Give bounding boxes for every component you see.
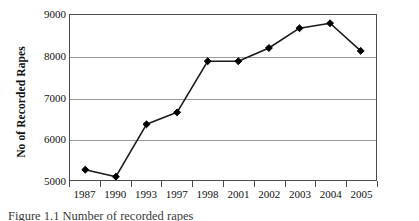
x-axis-tick <box>131 181 132 187</box>
data-point-marker <box>235 58 242 65</box>
figure-chart-recorded-rapes: No of Recorded Rapes 5000600070008000900… <box>0 0 419 221</box>
x-axis-tick-label: 1987 <box>73 188 95 201</box>
data-point-marker <box>82 166 89 173</box>
x-axis-tick-label: 1998 <box>197 188 219 201</box>
series-line <box>85 23 360 176</box>
y-axis-tick-label: 7000 <box>30 92 66 103</box>
x-axis-tick <box>69 181 70 187</box>
x-axis-tick-label: 2002 <box>258 188 280 201</box>
x-axis-tick <box>254 181 255 187</box>
y-axis-tick-label: 6000 <box>30 134 66 145</box>
plot-area <box>69 14 377 181</box>
x-axis-tick <box>377 181 378 187</box>
y-axis-tick-label: 8000 <box>30 50 66 61</box>
data-point-marker <box>174 109 181 116</box>
x-axis-tick <box>100 181 101 187</box>
x-axis-tick <box>315 181 316 187</box>
y-axis-tick-label: 5000 <box>30 176 66 187</box>
x-axis-tick-label: 2003 <box>289 188 311 201</box>
x-axis-tick <box>161 181 162 187</box>
x-axis-tick-label: 2001 <box>227 188 249 201</box>
data-point-marker <box>112 173 119 180</box>
x-axis-tick-labels: 1987199019931997199820012002200320042005 <box>69 188 377 202</box>
figure-caption: Figure 1.1 Number of recorded rapes <box>8 209 413 221</box>
x-axis-ticks <box>69 181 377 187</box>
y-axis-tick-label: 9000 <box>30 9 66 20</box>
x-axis-tick-label: 2004 <box>320 188 342 201</box>
x-axis-tick-label: 1990 <box>104 188 126 201</box>
y-axis-title-label: No of Recorded Rapes <box>15 46 27 158</box>
data-point-marker <box>204 58 211 65</box>
x-axis-tick-label: 2005 <box>351 188 373 201</box>
x-axis-tick <box>223 181 224 187</box>
line-series <box>70 15 376 180</box>
x-axis-tick <box>192 181 193 187</box>
y-axis-tick-labels: 50006000700080009000 <box>30 14 66 181</box>
x-axis-tick-label: 1993 <box>135 188 157 201</box>
x-axis-tick <box>285 181 286 187</box>
x-axis-tick-label: 1997 <box>166 188 188 201</box>
data-point-marker <box>143 121 150 128</box>
x-axis-tick <box>346 181 347 187</box>
y-axis-title: No of Recorded Rapes <box>13 28 29 176</box>
